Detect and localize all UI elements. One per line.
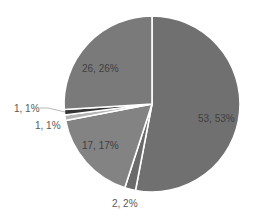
label-slice-1-dark: 1, 1% xyxy=(14,103,40,114)
pie-slices xyxy=(64,16,240,192)
label-slice-2: 2, 2% xyxy=(112,198,138,209)
label-slice-53: 53, 53% xyxy=(198,113,235,124)
label-slice-26: 26, 26% xyxy=(82,63,119,74)
pie-chart: 53, 53% 2, 2% 17, 17% 1, 1% 1, 1% 26, 26… xyxy=(0,0,257,223)
leader-line xyxy=(40,108,65,112)
label-slice-17: 17, 17% xyxy=(82,140,119,151)
label-slice-1-light: 1, 1% xyxy=(35,120,61,131)
